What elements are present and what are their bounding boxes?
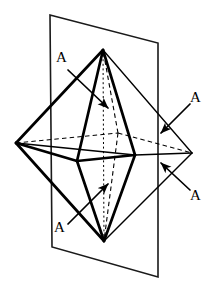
arrow-a-right-upper (161, 104, 190, 133)
label-a-right-upper: A (190, 90, 201, 105)
arrow-a-right-lower (161, 163, 190, 190)
label-a-top-left: A (56, 50, 67, 65)
figure-canvas (0, 0, 217, 291)
label-a-right-lower: A (190, 188, 201, 203)
octahedron-mirror-plane-figure: A A A A (0, 0, 217, 291)
label-a-bottom-left: A (54, 220, 65, 235)
